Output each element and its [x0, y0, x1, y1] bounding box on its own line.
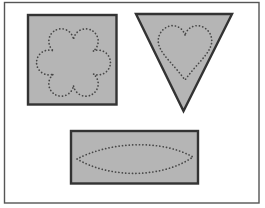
shapes-figure [0, 0, 265, 208]
illustration-canvas [0, 0, 265, 208]
gray-square [28, 15, 117, 105]
rectangle-panel [71, 131, 198, 184]
gray-rectangle [71, 131, 198, 184]
square-panel [28, 15, 117, 105]
